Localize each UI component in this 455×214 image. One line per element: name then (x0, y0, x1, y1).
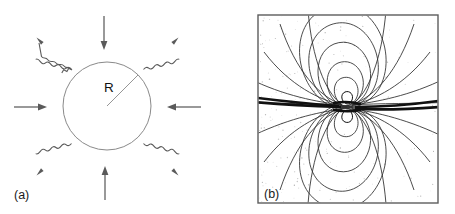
panel-a-canvas: R (0, 0, 228, 214)
inflow-arrow-left (14, 104, 47, 111)
outflow-wavy-top-left (36, 38, 72, 74)
outflow-wavy-bottom-right (144, 144, 180, 176)
inflow-arrow-top (101, 16, 108, 50)
inflow-arrow-right (167, 104, 201, 111)
outflow-wavy-top-right (144, 38, 180, 70)
outflow-wavy-bottom-left (36, 144, 72, 176)
panel-a: R (0, 0, 228, 214)
panel-b: (b) (228, 0, 455, 214)
panel-b-label: (b) (264, 187, 279, 201)
inflow-arrow-bottom (102, 166, 109, 200)
figure-root: R (0, 0, 455, 214)
panel-a-label: (a) (14, 188, 29, 202)
radius-label: R (104, 80, 114, 95)
panel-b-canvas: (b) (228, 0, 455, 214)
